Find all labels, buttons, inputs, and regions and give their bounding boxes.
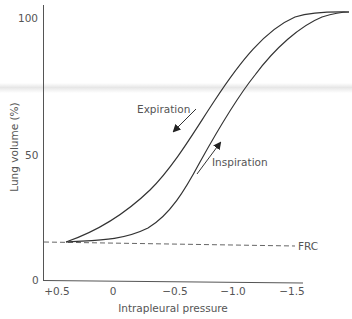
- y-tick-0: 0: [32, 275, 39, 286]
- x-axis: [44, 281, 304, 284]
- y-tick-50: 50: [25, 150, 38, 161]
- expiration-curve: [66, 12, 349, 242]
- frc-label: FRC: [298, 241, 318, 252]
- x-axis-title: Intrapleural pressure: [118, 303, 228, 314]
- inspiration-label: Inspiration: [212, 157, 268, 168]
- hysteresis-chart: [0, 0, 352, 319]
- y-axis-title: Lung volume (%): [8, 102, 20, 191]
- x-tick-minus-1-5: −1.5: [279, 286, 305, 297]
- frc-dashed-line: [44, 242, 295, 246]
- y-tick-100: 100: [18, 13, 38, 24]
- x-tick-minus-1-0: −1.0: [220, 286, 246, 297]
- x-tick-0: 0: [110, 286, 117, 297]
- x-tick-minus-0-5: −0.5: [162, 286, 188, 297]
- x-tick-plus-0-5: +0.5: [44, 286, 70, 297]
- expiration-label: Expiration: [137, 104, 190, 115]
- inspiration-curve: [66, 12, 349, 242]
